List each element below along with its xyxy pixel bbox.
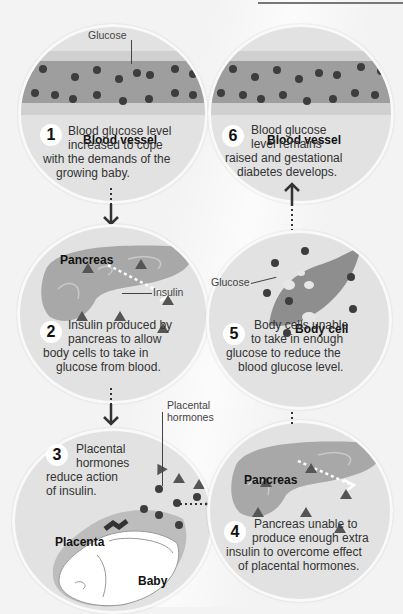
insulin-triangle	[300, 507, 312, 517]
step-1-text-line-1: Blood glucose level	[68, 124, 171, 138]
hormones-leader	[162, 412, 163, 486]
arrow-up-icon	[283, 182, 301, 206]
glucose-label-1: Glucose	[88, 29, 127, 41]
glucose-label-5: Glucose	[211, 276, 250, 288]
step-6-number: 6	[222, 125, 244, 147]
blood-vessel	[211, 51, 391, 115]
step-4-circle: Pancreas	[207, 420, 393, 602]
step-4-text-line-4: of placental hormones.	[238, 559, 359, 573]
hormone-triangle	[173, 473, 185, 483]
glucose-leader-1	[131, 40, 132, 64]
insulin-triangle	[252, 507, 264, 517]
step-4-number: 4	[224, 521, 246, 543]
step-2-text-line-3: body cells to take in	[43, 346, 148, 360]
placental-hormones-label-line-1: Placental	[167, 399, 210, 411]
step-4-text-line-1: Pancreas unable to	[254, 517, 357, 531]
insulin-triangle	[135, 259, 147, 269]
step-6-text-line-1: Blood glucose	[251, 123, 326, 137]
step-4-text-line-3: insulin to overcome effect	[226, 545, 362, 559]
step-5-text-line-3: glucose to reduce the	[226, 346, 341, 360]
step-5-text-line-4: blood glucose level.	[238, 360, 343, 374]
top-rule	[258, 2, 403, 4]
hormone-triangle	[193, 479, 205, 489]
step-1-text-line-3: with the demands of the	[43, 152, 170, 166]
step-5-text-line-2: to take in enough	[251, 332, 343, 346]
step-5-text-line-1: Body cells unable	[254, 318, 348, 332]
insulin-label: Insulin	[153, 286, 183, 298]
step-2-text-line-2: pancreas to allow	[68, 332, 161, 346]
arrow-down-icon	[102, 204, 120, 226]
step-2-heading: Pancreas	[60, 253, 113, 267]
arrow-down-icon	[102, 404, 120, 426]
step-4-text-line-2: produce enough extra	[252, 531, 369, 545]
step-3-text-line-3: reduce action	[46, 470, 118, 484]
step-2-text-line-1: Insulin produced by	[68, 318, 172, 332]
step-2-number: 2	[40, 321, 62, 343]
insulin-leader	[122, 293, 152, 294]
step-1-number: 1	[40, 124, 62, 146]
step-3-text-line-2: hormones	[76, 456, 129, 470]
step-1-text-line-2: increased to cope	[68, 138, 163, 152]
step-5-number: 5	[223, 323, 245, 345]
step-6-text-line-2: level remains	[251, 137, 322, 151]
step-4-heading: Pancreas	[244, 473, 297, 487]
step-6-text-line-4: diabetes develops.	[237, 165, 337, 179]
step-3-text-line-4: of insulin.	[46, 484, 97, 498]
step-3-text-line-1: Placental	[76, 442, 125, 456]
step-6-text-line-3: raised and gestational	[225, 151, 342, 165]
baby-label: Baby	[138, 574, 167, 588]
placenta-label: Placenta	[55, 535, 104, 549]
step-2-circle: Pancreas	[17, 224, 209, 404]
step-3-number: 3	[46, 444, 68, 466]
insulin-triangle	[340, 489, 352, 499]
hormone-triangle	[152, 461, 167, 476]
placental-hormones-label-line-2: hormones	[167, 411, 214, 423]
insulin-triangle	[305, 463, 317, 473]
step-1-text-line-4: growing baby.	[56, 166, 130, 180]
blood-vessel	[21, 51, 205, 115]
step-2-text-line-4: glucose from blood.	[56, 360, 161, 374]
flow-dots-5-6	[291, 204, 293, 230]
